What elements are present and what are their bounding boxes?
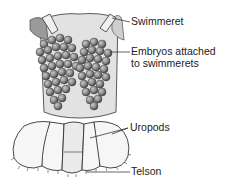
label-swimmeret: Swimmeret bbox=[131, 16, 184, 27]
tail-fan bbox=[13, 122, 129, 174]
label-telson: Telson bbox=[131, 166, 161, 177]
label-uropods: Uropods bbox=[130, 122, 170, 133]
uropod-outer-right bbox=[94, 122, 129, 169]
telson bbox=[62, 122, 84, 173]
lobster-tail-illustration bbox=[0, 0, 225, 186]
label-embryos-line1: Embryos attached bbox=[131, 46, 216, 57]
label-embryos-line2: to swimmerets bbox=[131, 58, 199, 69]
